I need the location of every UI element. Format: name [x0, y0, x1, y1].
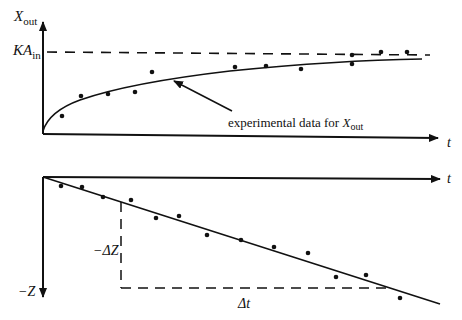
bottom-x-axis: [43, 177, 440, 179]
diagram: Xout KAin t experimental data for Xout: [0, 0, 462, 320]
top-plot: Xout KAin t experimental data for Xout: [12, 8, 452, 150]
top-x-label: t: [447, 135, 452, 150]
top-x-axis: [43, 134, 438, 138]
bottom-x-label: t: [447, 171, 452, 186]
top-data-points: [60, 50, 410, 119]
top-y-label: Xout: [13, 8, 37, 27]
delta-z-label: −ΔZ: [93, 243, 119, 258]
asymptote-line: [47, 52, 430, 55]
delta-t-label: Δt: [237, 296, 251, 311]
asymptote-label: KAin: [12, 42, 41, 61]
bottom-data-points: [59, 184, 403, 301]
bottom-plot: t −Z −ΔZ Δt: [18, 171, 452, 311]
annotation-label: experimental data for Xout: [228, 115, 363, 132]
bottom-y-label: −Z: [18, 284, 35, 299]
annotation-arrow: [174, 81, 232, 111]
